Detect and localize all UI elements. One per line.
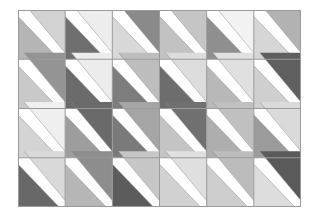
quilt-cell [112,102,159,158]
quilt-cell [160,10,207,59]
quilt-cell [112,10,159,59]
quilt-cell [112,151,159,207]
quilt-cell [65,53,112,109]
quilt-cell [207,53,254,109]
quilt-cell [18,151,65,207]
quilt-pattern-figure [18,10,301,207]
quilt-cell [65,10,112,59]
quilt-cell [65,102,112,158]
quilt-cell [254,102,301,158]
quilt-cell [207,10,254,59]
quilt-cell [160,151,207,207]
quilt-cell [112,53,159,109]
quilt-cell [18,10,65,59]
quilt-cell [207,102,254,158]
quilt-cell [254,10,301,59]
quilt-cell [254,53,301,109]
quilt-cell [254,151,301,207]
quilt-cell [18,53,65,109]
quilt-cell [18,102,65,158]
quilt-cell [207,151,254,207]
canvas [0,0,319,217]
quilt-cell [160,53,207,109]
quilt-cell [65,151,112,207]
quilt-grid-svg [18,10,301,207]
quilt-cell [160,102,207,158]
